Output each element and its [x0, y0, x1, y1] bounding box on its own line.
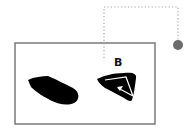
diagram-svg — [0, 0, 188, 137]
diagram-canvas: B — [0, 0, 188, 137]
shape-b-label: B — [114, 57, 122, 68]
dotted-connector — [104, 7, 178, 58]
connector-endpoint-dot — [173, 40, 183, 50]
shape-a-blob — [28, 76, 78, 104]
